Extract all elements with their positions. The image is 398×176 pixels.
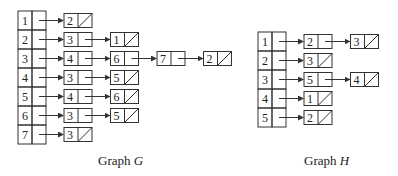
node-value: 3: [67, 71, 73, 85]
vertex-label: 7: [22, 128, 28, 142]
vertex-row: 354: [258, 70, 379, 89]
null-pointer-icon: [318, 92, 332, 106]
node-value: 6: [114, 52, 120, 66]
list-node: 4: [351, 73, 379, 87]
node-value: 6: [114, 90, 120, 104]
null-pointer-icon: [125, 33, 139, 47]
list-node: 6: [111, 90, 139, 104]
vertex-label: 3: [22, 52, 28, 66]
vertex-label: 2: [22, 33, 28, 47]
list-node: 1: [111, 33, 139, 47]
null-pointer-icon: [218, 52, 232, 66]
list-node: 3: [64, 128, 92, 142]
null-pointer-icon: [125, 109, 139, 123]
list-node: 5: [111, 71, 139, 85]
vertex-label: 4: [262, 92, 268, 106]
list-node: 2: [204, 52, 232, 66]
node-value: 3: [354, 35, 360, 49]
node-value: 2: [307, 111, 313, 125]
vertex-row: 34672: [18, 49, 232, 68]
vertex-row: 52: [258, 108, 332, 127]
vertex-row: 12: [18, 11, 92, 30]
vertex-label: 4: [22, 71, 28, 85]
null-pointer-icon: [125, 71, 139, 85]
node-value: 1: [114, 33, 120, 47]
node-value: 5: [114, 71, 120, 85]
vertex-label: 5: [262, 111, 268, 125]
list-node: 2: [64, 14, 92, 28]
node-value: 2: [307, 35, 313, 49]
node-value: 3: [67, 128, 73, 142]
node-value: 3: [67, 33, 73, 47]
vertex-row: 123: [258, 32, 379, 51]
vertex-row: 635: [18, 106, 139, 125]
list-node: 3: [304, 54, 332, 68]
vertex-row: 23: [258, 51, 332, 70]
vertex-row: 41: [258, 89, 332, 108]
adjacency-list-diagram: 122313467243554663573123233544152: [0, 0, 398, 176]
null-pointer-icon: [318, 111, 332, 125]
null-pointer-icon: [78, 128, 92, 142]
caption-var: G: [134, 153, 143, 168]
caption-graph-g: Graph G: [98, 153, 143, 169]
vertex-label: 1: [22, 14, 28, 28]
caption-graph-h: Graph H: [304, 153, 349, 169]
node-value: 4: [67, 90, 73, 104]
node-value: 4: [67, 52, 73, 66]
node-value: 5: [307, 73, 313, 87]
vertex-row: 435: [18, 68, 139, 87]
node-value: 2: [67, 14, 73, 28]
node-value: 3: [67, 109, 73, 123]
node-value: 5: [114, 109, 120, 123]
list-node: 2: [304, 111, 332, 125]
node-value: 2: [207, 52, 213, 66]
node-value: 4: [354, 73, 360, 87]
caption-prefix: Graph: [98, 153, 134, 168]
null-pointer-icon: [125, 90, 139, 104]
vertex-label: 6: [22, 109, 28, 123]
graph-h: 123233544152: [258, 32, 379, 127]
null-pointer-icon: [318, 54, 332, 68]
vertex-row: 73: [18, 125, 92, 144]
list-node: 3: [351, 35, 379, 49]
graph-g: 122313467243554663573: [18, 11, 232, 144]
list-node: 1: [304, 92, 332, 106]
vertex-row: 546: [18, 87, 139, 106]
node-value: 7: [160, 52, 166, 66]
vertex-label: 1: [262, 35, 268, 49]
vertex-label: 5: [22, 90, 28, 104]
null-pointer-icon: [365, 73, 379, 87]
caption-prefix: Graph: [304, 153, 340, 168]
vertex-label: 2: [262, 54, 268, 68]
vertex-row: 231: [18, 30, 139, 49]
node-value: 1: [307, 92, 313, 106]
null-pointer-icon: [365, 35, 379, 49]
list-node: 5: [111, 109, 139, 123]
vertex-label: 3: [262, 73, 268, 87]
node-value: 3: [307, 54, 313, 68]
null-pointer-icon: [78, 14, 92, 28]
caption-var: H: [340, 153, 349, 168]
